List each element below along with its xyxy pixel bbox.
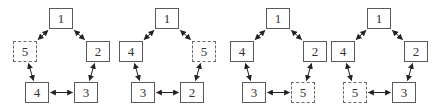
node-4: 4 (25, 82, 49, 103)
node-1: 1 (266, 8, 290, 29)
bidirectional-arrow (196, 64, 201, 81)
bidirectional-arrow (74, 31, 84, 40)
node-2: 2 (180, 82, 204, 103)
node-5-dashed: 5 (192, 41, 216, 62)
node-label: 5 (352, 85, 359, 101)
node-4: 4 (331, 41, 355, 62)
node-label: 4 (239, 44, 246, 60)
node-label: 1 (275, 11, 282, 27)
node-3: 3 (242, 82, 266, 103)
node-3: 3 (392, 82, 416, 103)
bidirectional-arrow (307, 64, 312, 81)
node-label: 1 (376, 11, 383, 27)
node-label: 4 (34, 85, 41, 101)
bidirectional-arrow (135, 64, 140, 81)
bidirectional-arrow (246, 64, 251, 81)
panel-3: 14235 (217, 0, 327, 109)
node-label: 1 (164, 11, 171, 27)
node-label: 4 (340, 44, 347, 60)
bidirectional-arrow (255, 31, 265, 40)
node-5-dashed: 5 (13, 41, 37, 62)
node-label: 2 (413, 44, 420, 60)
bidirectional-arrow (408, 64, 413, 81)
node-label: 3 (401, 85, 408, 101)
node-label: 3 (83, 85, 90, 101)
node-2: 2 (404, 41, 428, 62)
bidirectional-arrow (356, 31, 366, 40)
bidirectional-arrow (90, 64, 95, 81)
node-4: 4 (119, 41, 143, 62)
node-label: 4 (128, 44, 135, 60)
ring-diagram: 15243 14532 14235 14253 (0, 0, 440, 109)
node-5-dashed: 5 (291, 82, 315, 103)
node-3: 3 (131, 82, 155, 103)
node-label: 1 (58, 11, 65, 27)
bidirectional-arrow (392, 31, 402, 40)
node-3: 3 (74, 82, 98, 103)
bidirectional-arrow (29, 64, 34, 81)
panel-4: 14253 (318, 0, 428, 109)
bidirectional-arrow (291, 31, 301, 40)
node-4: 4 (230, 41, 254, 62)
node-1: 1 (155, 8, 179, 29)
bidirectional-arrow (144, 31, 154, 40)
node-1: 1 (49, 8, 73, 29)
node-label: 3 (140, 85, 147, 101)
node-label: 3 (251, 85, 258, 101)
node-label: 5 (22, 44, 29, 60)
node-label: 5 (300, 85, 307, 101)
bidirectional-arrow (38, 31, 48, 40)
node-label: 5 (201, 44, 208, 60)
bidirectional-arrow (180, 31, 190, 40)
node-5-dashed: 5 (343, 82, 367, 103)
bidirectional-arrow (347, 64, 352, 81)
node-1: 1 (367, 8, 391, 29)
panel-1: 15243 (0, 0, 110, 109)
panel-2: 14532 (106, 0, 216, 109)
node-label: 2 (189, 85, 196, 101)
node-label: 2 (95, 44, 102, 60)
